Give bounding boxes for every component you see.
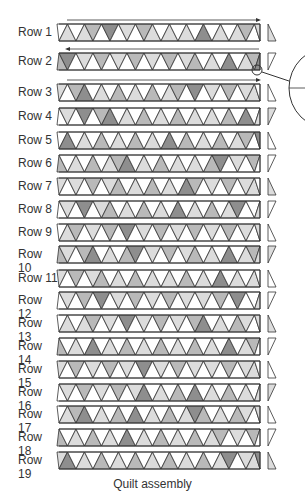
quilt-row <box>57 452 260 469</box>
quilt-row <box>57 132 260 149</box>
quilt-row <box>57 24 260 41</box>
quilt-row <box>57 361 260 378</box>
end-piece-triangle <box>268 178 276 195</box>
quilt-row <box>57 201 260 218</box>
quilt-row <box>57 246 260 263</box>
quilt-row <box>57 429 260 446</box>
quilt-row <box>57 406 260 423</box>
end-piece-triangle <box>268 53 276 70</box>
end-piece-triangle <box>268 384 276 401</box>
end-piece-triangle <box>268 224 276 241</box>
arrowhead-icon <box>256 78 261 82</box>
end-piece-triangle <box>268 132 276 149</box>
end-piece-triangle <box>268 246 276 263</box>
end-piece-triangle <box>268 406 276 423</box>
end-piece-triangle <box>268 270 276 287</box>
quilt-row <box>57 178 260 195</box>
quilt-assembly-diagram <box>0 0 305 501</box>
end-piece-triangle <box>268 108 276 125</box>
end-piece-triangle <box>268 24 276 41</box>
arrowhead-icon <box>65 47 70 51</box>
end-piece-triangle <box>268 201 276 218</box>
end-piece-triangle <box>268 155 276 172</box>
end-piece-triangle <box>268 452 276 469</box>
quilt-row <box>57 338 260 355</box>
quilt-row <box>57 315 260 332</box>
diagram-caption: Quilt assembly <box>0 477 305 491</box>
end-piece-triangle <box>268 84 276 101</box>
end-piece-triangle <box>268 361 276 378</box>
quilt-row <box>57 84 260 101</box>
quilt-row <box>57 108 260 125</box>
end-piece-triangle <box>268 315 276 332</box>
quilt-row <box>57 270 260 287</box>
end-piece-triangle <box>268 292 276 309</box>
end-piece-triangle <box>268 429 276 446</box>
arrowhead-icon <box>256 18 261 22</box>
quilt-row <box>57 155 260 172</box>
end-piece-triangle <box>268 338 276 355</box>
quilt-row <box>57 53 260 70</box>
quilt-row <box>57 224 260 241</box>
quilt-row <box>57 292 260 309</box>
quilt-row <box>57 384 260 401</box>
